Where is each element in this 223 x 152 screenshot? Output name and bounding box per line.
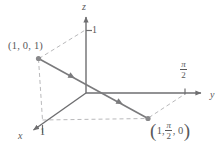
point-b-label: ( 1, π 2 , 0 ) [150,121,190,141]
fraction-denominator: 2 [180,71,187,80]
point-b-last-coord: , 0 [172,126,184,137]
curve-path [39,59,149,119]
curve-arrowhead-1 [68,72,77,80]
y-axis-label: y [210,90,214,100]
x-axis-label: x [18,131,22,141]
fraction-numerator: π [180,60,187,69]
dash-pointb-to-ytick [149,94,185,118]
point-b-first-coord: 1, [156,126,165,137]
pi-over-2-fraction: π 2 [180,60,187,80]
dash-pointa-to-ztick [39,31,85,59]
y-axis-tick-label: π 2 [180,60,187,80]
axes-group [34,17,202,130]
dash-xtick-to-pointb [43,119,148,121]
point-b-fraction-numerator: π [165,121,172,130]
z-axis-tick-label: 1 [92,25,97,35]
math-figure-3d-curve: z y x 1 1 π 2 (1, 0, 1) ( 1, π 2 , 0 ) [0,0,223,152]
x-axis [34,93,87,130]
point-a-dot [36,56,41,61]
point-b-fraction-denominator: 2 [165,132,172,141]
x-axis-tick-label: 1 [40,127,45,137]
z-axis-label: z [82,2,86,12]
point-b-close-paren: ) [184,121,190,140]
point-b-open-paren: ( [150,121,156,140]
point-a-label: (1, 0, 1) [8,41,43,52]
tick-marks [43,31,186,134]
dashed-construction-lines [39,31,186,121]
dash-pointa-to-xaxis [39,59,43,120]
space-curve [39,59,149,119]
point-b-pi-over-2-fraction: π 2 [165,121,172,141]
